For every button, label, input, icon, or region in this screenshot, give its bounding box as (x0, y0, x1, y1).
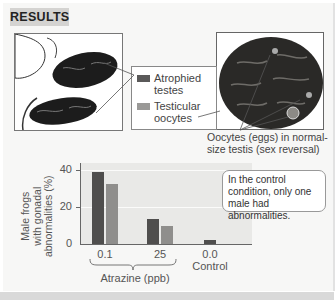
x-axis (80, 244, 252, 245)
xtick-label-control: Control (186, 260, 234, 272)
oocytes-annotation: Oocytes (eggs) in normal-size testis (se… (207, 131, 332, 155)
ytick-label-20: 20 (54, 200, 72, 212)
bar-0.1-atrophied (92, 172, 104, 244)
bar-25-oocytes (161, 226, 173, 244)
ytick-40 (76, 170, 80, 171)
control-callout: In the control condition, only one male … (222, 170, 326, 212)
ytick-label-40: 40 (54, 163, 72, 175)
xtick-label-0.0: 0.0 (190, 248, 230, 260)
bar-25-atrophied (147, 219, 159, 244)
y-axis (80, 163, 81, 245)
ytick-label-0: 0 (54, 237, 72, 249)
y-axis-label: Male frogs with gonadal abnormalities (%… (20, 167, 55, 265)
bar-0.1-oocytes (106, 184, 118, 244)
x-group-label: Atrazine (ppb) (100, 272, 170, 284)
ytick-20 (76, 207, 80, 208)
